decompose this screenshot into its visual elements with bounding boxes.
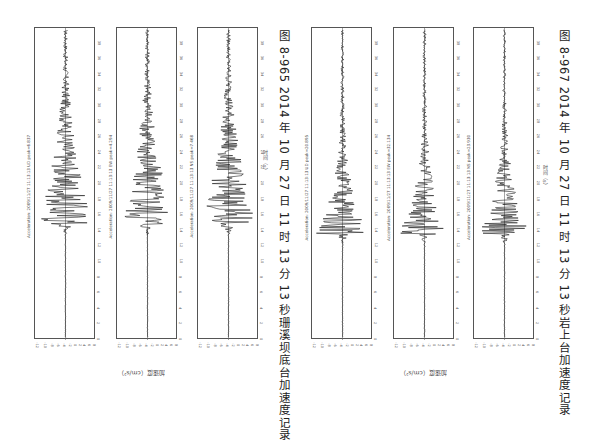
trace [312,28,373,340]
time-axis-ticks: 02468101214161820222426283032343638 [374,27,382,339]
accelerogram-panel [311,27,372,339]
amplitude-axis-ticks: -12-10-8-6-4-202468 [311,343,372,347]
trace [474,28,535,340]
time-axis-ticks: 02468101214161820222426283032343638 [97,27,105,339]
panel-annotation: Acceleration: 2009/11/27 11:13:13 UD pea… [304,135,309,240]
y-axis-label: 加速度（cm/s²） [118,369,165,378]
panel-annotation: Acceleration: 2009/11/27 11:13:13 EW pea… [386,135,391,241]
panel-annotation: Acceleration: 2009/11/27 11:13:13 EW pea… [108,135,113,238]
y-axis-label: 加速度（cm/s²） [400,369,447,378]
time-axis-ticks: 02468101214161820222426283032343638 [260,27,268,339]
amplitude-axis-ticks: -12-10-8-6-4-202468 [34,343,95,347]
accelerogram-panel [393,27,454,339]
panel-annotation: Acceleration: 2009/11/27 11:13:13 UD pea… [26,135,31,238]
accelerogram-panel [116,27,177,339]
accelerogram-panel [34,27,95,339]
trace [198,28,259,340]
time-axis-ticks: 02468101214161820222426283032343638 [179,27,187,339]
panel-annotation: Acceleration: 2009/11/27 11:13:13 NS pea… [189,135,194,237]
time-axis-ticks: 02468101214161820222426283032343638 [456,27,464,339]
time-axis-ticks: 02468101214161820222426283032343638 [536,27,544,339]
accelerogram-panel [473,27,534,339]
amplitude-axis-ticks: -12-10-8-6-4-202468 [197,343,258,347]
amplitude-axis-ticks: -12-10-8-6-4-202468 [473,343,534,347]
trace [35,28,96,340]
accelerogram-panel [197,27,258,339]
trace [394,28,455,340]
figure-caption: 图 8-965 2014 年 10 月 27 日 11 时 13 分 13 秒珊… [276,30,292,442]
amplitude-axis-ticks: -12-10-8-6-4-202468 [393,343,454,347]
panel-annotation: Acceleration: 2009/11/27 11:13:13 NS pea… [466,135,471,240]
figure-caption: 图 8-967 2014 年 10 月 27 日 11 时 13 分 13 秒岩… [556,30,572,417]
amplitude-axis-ticks: -12-10-8-6-4-202468 [116,343,177,347]
trace [117,28,178,340]
